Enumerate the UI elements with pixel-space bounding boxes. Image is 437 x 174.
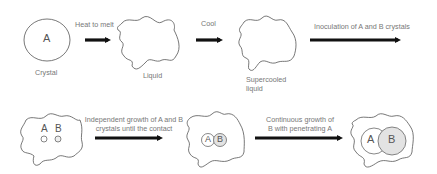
penetration-b-letter: B: [388, 135, 395, 144]
nuclei-b-letter: B: [55, 124, 62, 133]
liquid-label: Liquid: [143, 71, 162, 80]
continuous-label-1: Continuous growth of: [260, 115, 340, 124]
supercooled-blob: [239, 16, 296, 70]
penetration-a-letter: A: [367, 135, 374, 144]
independent-label-2: crystals until the contact: [82, 124, 186, 133]
crystal-letter: A: [43, 34, 50, 43]
continuous-label-2: B with penetrating A: [260, 124, 340, 133]
nucleus-b: [55, 136, 61, 142]
contact-b-letter: B: [217, 135, 223, 144]
supercooled-label-2: liquid: [246, 84, 263, 93]
nucleus-a: [41, 136, 47, 142]
supercooled-label-1: Supercooled: [246, 75, 286, 84]
cool-label: Cool: [201, 19, 216, 28]
heat-label: Heat to melt: [75, 20, 114, 29]
contact-a-letter: A: [205, 135, 211, 144]
liquid-blob: [117, 16, 179, 68]
crystal-label: Crystal: [35, 68, 57, 77]
inoculation-label: Inoculation of A and B crystals: [314, 22, 410, 31]
nuclei-blob: [21, 114, 83, 166]
nuclei-a-letter: A: [41, 124, 48, 133]
independent-label-1: Independent growth of A and B: [82, 115, 186, 124]
